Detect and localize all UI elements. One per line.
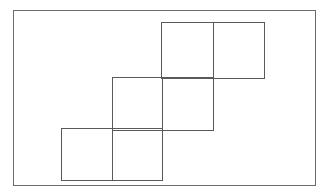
figure-svg <box>0 0 331 196</box>
shapes-group <box>62 23 265 181</box>
outer-frame-rect <box>14 11 316 186</box>
figure-canvas <box>0 0 331 196</box>
